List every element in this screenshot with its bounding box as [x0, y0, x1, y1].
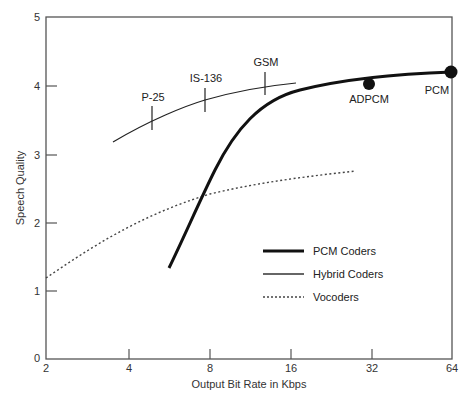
vocoders-curve — [46, 171, 356, 278]
y-tick-labels: 5 4 3 2 1 0 — [34, 11, 40, 364]
y-axis — [46, 86, 57, 291]
x-tick-label: 2 — [43, 362, 49, 374]
legend-label-hybrid: Hybrid Coders — [313, 268, 384, 280]
y-tick-label: 1 — [34, 285, 40, 297]
x-tick-label: 64 — [446, 362, 458, 374]
x-tick-label: 32 — [366, 362, 378, 374]
speech-quality-chart: 5 4 3 2 1 0 2 4 8 16 32 64 Output Bit Ra… — [0, 0, 470, 400]
legend-label-vocoders: Vocoders — [313, 291, 359, 303]
y-tick-label: 4 — [34, 80, 40, 92]
plot-frame — [46, 17, 452, 359]
y-tick-label: 5 — [34, 11, 40, 23]
adpcm-point — [363, 78, 375, 90]
adpcm-label: ADPCM — [349, 93, 389, 105]
x-axis — [129, 349, 372, 359]
p25-label: P-25 — [141, 91, 164, 103]
y-axis-title: Speech Quality — [14, 150, 26, 225]
gsm-label: GSM — [253, 56, 278, 68]
legend: PCM Coders Hybrid Coders Vocoders — [263, 245, 384, 303]
x-tick-label: 8 — [207, 362, 213, 374]
y-tick-label: 3 — [34, 149, 40, 161]
x-tick-label: 4 — [126, 362, 132, 374]
y-tick-label: 0 — [34, 352, 40, 364]
pcm-point — [445, 66, 458, 79]
pcm-label: PCM — [425, 84, 449, 96]
is136-label: IS-136 — [190, 72, 222, 84]
legend-label-pcm: PCM Coders — [313, 245, 376, 257]
x-tick-label: 16 — [285, 362, 297, 374]
x-tick-labels: 2 4 8 16 32 64 — [43, 362, 458, 374]
x-axis-title: Output Bit Rate in Kbps — [192, 378, 307, 390]
y-tick-label: 2 — [34, 217, 40, 229]
pcm-coders-curve — [169, 72, 452, 268]
